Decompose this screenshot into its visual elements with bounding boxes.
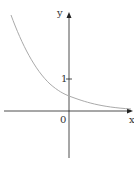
origin-label: 0	[60, 114, 66, 125]
exponential-graph: y x 0 1	[0, 0, 134, 175]
x-axis-label: x	[129, 114, 134, 125]
tick-label-one: 1	[61, 73, 67, 84]
y-axis-label: y	[56, 7, 63, 18]
y-axis-arrow-icon	[67, 12, 72, 18]
exponential-curve	[11, 15, 131, 109]
